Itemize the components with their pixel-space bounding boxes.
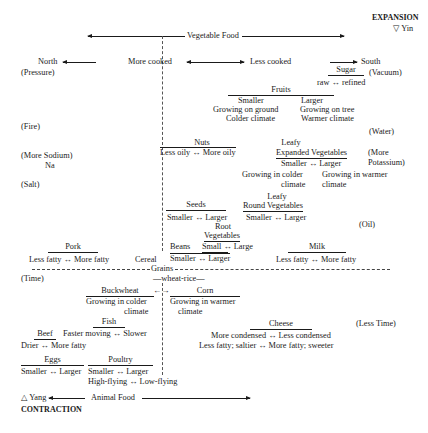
wheat-rice-label: —wheat-rice—	[153, 275, 205, 283]
less-cooked-label: Less cooked	[250, 58, 291, 66]
fish-range: Faster moving ↔ Slower	[63, 330, 147, 338]
beans-range: Smaller ↔ Larger	[170, 253, 230, 263]
more-cooked-label: More cooked	[128, 58, 172, 66]
cheese-range-2: Less fatty; saltier ↔ More fatty; sweete…	[199, 342, 334, 350]
south-arrow	[330, 62, 357, 63]
more-potassium-label-1: (More	[368, 149, 389, 157]
fruits-colder-climate: Colder climate	[226, 115, 275, 123]
north-arrow	[63, 62, 96, 63]
pork-range: Less fatty ↔ More fatty	[29, 256, 109, 264]
corn-line-1: Growing in warmer	[170, 298, 235, 306]
poultry-range-1: Smaller ↔ Larger	[88, 368, 148, 376]
buckwheat-line-1: Growing in colder	[86, 298, 147, 306]
animal-food-label: Animal Food	[91, 394, 135, 402]
leafy-expanded-title-2: Expanded Vegetables	[276, 149, 347, 159]
beef-range: Drier ↔ More fatty	[21, 342, 86, 350]
nuts-range: Less oily ↔ More oily	[160, 147, 236, 157]
vacuum-label: (Vacuum)	[369, 69, 402, 77]
leafy-expanded-colder-2: climate	[281, 181, 305, 189]
animal-food-arrow-left	[49, 398, 85, 399]
yin-label: ▽ Yin	[393, 25, 413, 33]
more-potassium-label-2: Potassium)	[368, 159, 405, 167]
eggs-range: Smaller ↔ Larger	[21, 368, 81, 376]
time-label: (Time)	[21, 275, 44, 283]
leafy-expanded-warmer-1: Growing in warmer	[322, 171, 387, 179]
corn-line-2: climate	[178, 308, 202, 316]
milk-title: Milk	[288, 243, 346, 253]
leafy-round-range: Smaller ↔ Larger	[246, 214, 306, 222]
center-divider-lower	[162, 283, 163, 375]
corn-title: Corn	[170, 287, 240, 297]
poultry-range-2: High-flying ↔ Low-flying	[88, 378, 177, 386]
cheese-range-1: More condensed ↔ Less condensed	[211, 332, 331, 340]
animal-food-arrow-right	[142, 398, 250, 399]
vegetable-food-arrow-right	[242, 36, 344, 37]
buckwheat-corn-arrow: ←→	[153, 287, 170, 295]
na-label: Na	[45, 162, 55, 170]
root-veg-title-2: Vegetables	[204, 232, 240, 242]
grains-line-right	[175, 269, 390, 270]
leafy-expanded-warmer-2: climate	[322, 181, 346, 189]
cooked-arrow	[187, 62, 244, 63]
buckwheat-line-2: climate	[124, 308, 148, 316]
north-label: North	[38, 58, 57, 66]
cheese-title: Cheese	[250, 320, 312, 330]
expansion-label: EXPANSION	[372, 14, 419, 22]
leafy-expanded-title-1: Leafy	[276, 139, 306, 147]
leafy-round-title-2: Round Vegetables	[243, 202, 303, 212]
root-veg-range: Small ↔ Large	[202, 243, 253, 251]
eggs-title: Eggs	[21, 356, 84, 366]
leafy-expanded-range: Smaller ↔ Larger	[281, 160, 341, 168]
fish-title: Fish	[93, 318, 125, 328]
pressure-label: (Pressure)	[21, 69, 55, 77]
oil-label: (Oil)	[359, 221, 375, 229]
grains-label: Grains	[151, 265, 173, 273]
pork-title: Pork	[48, 243, 98, 253]
less-time-label: (Less Time)	[356, 320, 396, 328]
water-label: (Water)	[369, 128, 394, 136]
seeds-title: Seeds	[166, 201, 226, 211]
yang-label: △ Yang	[21, 394, 46, 402]
leafy-expanded-colder-1: Growing in colder	[242, 171, 303, 179]
grains-line-left	[32, 269, 150, 270]
beans-title: Beans	[170, 243, 190, 251]
poultry-title: Poultry	[88, 356, 153, 366]
vegetable-food-arrow-left	[88, 36, 185, 37]
vegetable-food-label: Vegetable Food	[187, 32, 239, 40]
fruits-title: Fruits	[228, 86, 334, 96]
more-sodium-label: (More Sodium)	[21, 152, 72, 160]
beef-title: Beef	[34, 330, 56, 340]
contraction-label: CONTRACTION	[21, 406, 82, 414]
fire-label: (Fire)	[21, 123, 40, 131]
salt-label: (Salt)	[21, 181, 39, 189]
fruits-warmer-climate: Warmer climate	[301, 115, 354, 123]
sugar-title: Sugar	[328, 66, 364, 76]
buckwheat-title: Buckwheat	[86, 287, 154, 297]
milk-range: Less fatty ↔ More fatty	[276, 256, 356, 264]
